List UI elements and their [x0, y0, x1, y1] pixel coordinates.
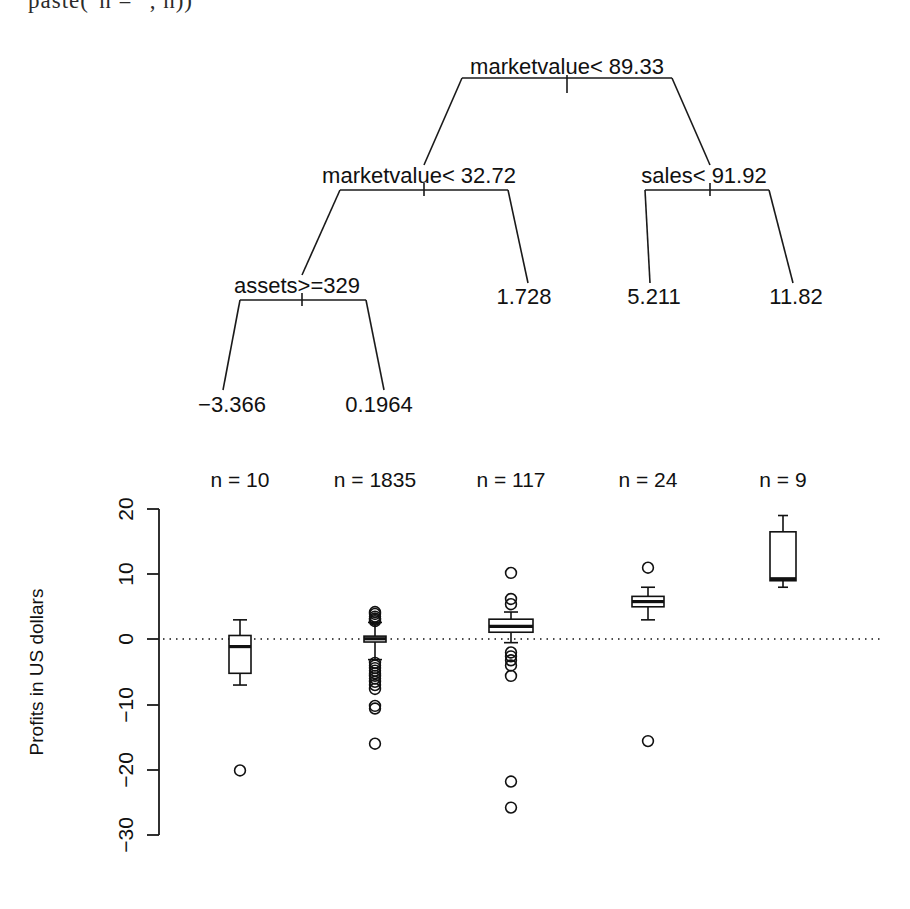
tree-node-assets: assets>=329	[234, 273, 360, 298]
tree-leaf-5: 11.82	[769, 284, 822, 309]
boxplot-group-labels: n = 10 n = 1835 n = 117 n = 24 n = 9	[211, 468, 807, 491]
group-label-4: n = 24	[619, 468, 678, 491]
tree-leaf-3: 1.728	[496, 284, 551, 309]
regression-tree-and-boxplot-figure: marketvalue< 89.33 marketvalue< 32.72 sa…	[0, 0, 910, 909]
outlier-3-1	[506, 567, 517, 578]
outlier-3-8	[506, 671, 517, 682]
y-tick-label-neg10: −10	[114, 687, 137, 723]
outlier-1-1	[235, 765, 246, 776]
y-tick-label-10: 10	[114, 562, 137, 585]
outlier-2-18	[370, 703, 381, 714]
tree-node-root: marketvalue< 89.33	[470, 54, 664, 79]
group-label-5: n = 9	[759, 468, 806, 491]
tree-edges	[223, 75, 793, 390]
tree-edge-root-right	[672, 78, 710, 165]
tree-edge-n2-left	[302, 190, 340, 275]
tree-edge-n3-left	[645, 190, 650, 283]
outlier-2-17	[370, 701, 381, 712]
y-tick-label-0: 0	[114, 633, 137, 645]
tree-node-sales: sales< 91.92	[641, 163, 766, 188]
group-label-2: n = 1835	[334, 468, 416, 491]
tree-edge-n3-right	[769, 190, 793, 283]
outlier-3-9	[506, 776, 517, 787]
tree-edge-n4-right	[366, 300, 384, 390]
tree-node-labels: marketvalue< 89.33 marketvalue< 32.72 sa…	[234, 54, 767, 298]
tree-edge-n4-left	[223, 300, 240, 390]
tree-node-marketvalue-32: marketvalue< 32.72	[322, 163, 516, 188]
tree-edge-root-left	[424, 78, 462, 165]
box-5	[770, 532, 796, 581]
tree-leaf-labels: −3.366 0.1964 1.728 5.211 11.82	[198, 284, 823, 417]
boxplot-group-3	[489, 567, 533, 813]
tree-leaf-2: 0.1964	[345, 392, 412, 417]
boxplot-series-group	[229, 516, 796, 813]
outlier-4-1	[643, 562, 654, 573]
y-tick-label-neg20: −20	[114, 752, 137, 788]
y-tick-label-20: 20	[114, 497, 137, 520]
boxplot-group-2	[364, 607, 386, 750]
outlier-3-10	[506, 802, 517, 813]
y-tick-label-neg30: −30	[114, 817, 137, 853]
boxplot-group-1	[229, 620, 251, 776]
tree-leaf-1: −3.366	[198, 392, 266, 417]
tree-leaf-4: 5.211	[627, 284, 680, 309]
boxplot-group-5	[770, 516, 796, 588]
outlier-2-19	[370, 738, 381, 749]
outlier-4-2	[643, 736, 654, 747]
group-label-3: n = 117	[476, 468, 545, 491]
y-axis-title: Profits in US dollars	[26, 589, 47, 756]
group-label-1: n = 10	[211, 468, 270, 491]
tree-edge-n2-right	[508, 190, 528, 283]
box-1	[229, 635, 251, 673]
y-axis: 20 10 0 −10 −20 −30 Profits in US dollar…	[26, 497, 159, 852]
boxplot-group-4	[632, 562, 664, 746]
figure-canvas: paste("n = ", n))	[0, 0, 910, 909]
